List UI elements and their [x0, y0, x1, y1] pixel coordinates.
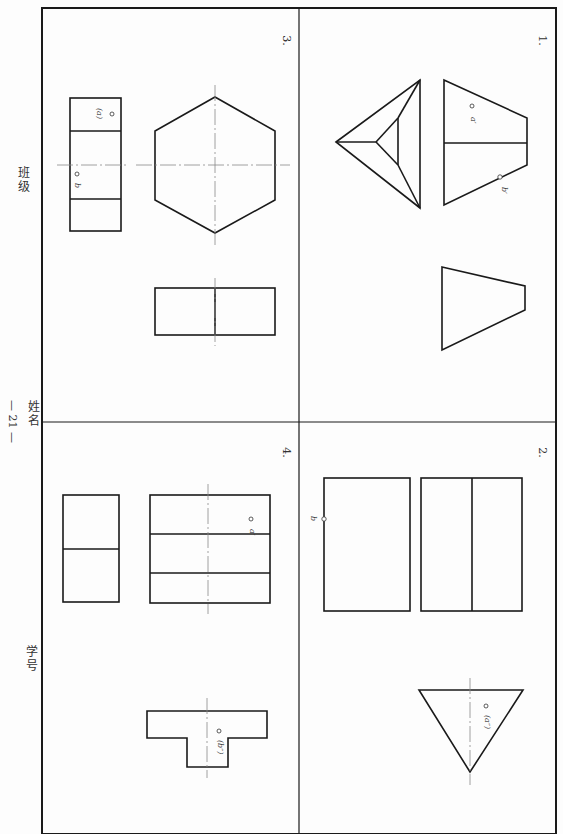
label-b: b — [309, 516, 318, 521]
problem-1-points — [470, 104, 502, 179]
problem3-centerlines — [57, 85, 290, 346]
class-field-label: 班级 — [14, 166, 31, 194]
problem-2-drawings — [324, 478, 523, 772]
name-field-label: 姓名 — [24, 400, 41, 428]
point-b-prime-marker — [498, 175, 502, 179]
label-a-prime-p4: a′ — [248, 529, 257, 536]
problem-3-number: 3. — [280, 35, 293, 46]
problem-4-number: 4. — [280, 447, 293, 458]
point-a-double-prime-marker — [484, 704, 488, 708]
point-a-prime-marker — [470, 104, 474, 108]
point-b-marker-p3 — [75, 172, 79, 176]
student-id-field-label: 学号 — [22, 645, 39, 673]
problem2-left-rect — [324, 478, 410, 611]
problem-2-number: 2. — [536, 447, 549, 458]
problem4-centerlines — [207, 484, 208, 778]
point-b-marker — [322, 517, 326, 521]
label-b-p3: b — [73, 183, 82, 188]
problem2-triangle — [419, 690, 523, 772]
label-a-paren: (a) — [95, 108, 104, 119]
label-b-prime: b′ — [500, 187, 509, 194]
pyramid-side-trapezoid — [442, 267, 525, 350]
point-a-prime-marker-p4 — [249, 517, 253, 521]
page-number: — 21 — — [6, 400, 19, 443]
problem-1-number: 1. — [536, 35, 549, 46]
problem-4-drawings — [63, 495, 270, 767]
worksheet-page: 1. 2. 3. 4. a′ b′ b (a″) (a) b a′ (b″) 班… — [0, 0, 563, 834]
label-a-double-prime: (a″) — [483, 715, 492, 729]
point-a-marker — [110, 112, 114, 116]
problem4-middle-rect — [150, 495, 270, 603]
label-b-double-prime: (b″) — [216, 740, 225, 754]
problem-3-drawings — [70, 97, 275, 335]
point-b-double-prime-marker — [217, 729, 221, 733]
problem-1-drawings — [336, 80, 527, 350]
drawing-frame — [0, 0, 563, 834]
label-a-prime: a′ — [469, 117, 478, 124]
